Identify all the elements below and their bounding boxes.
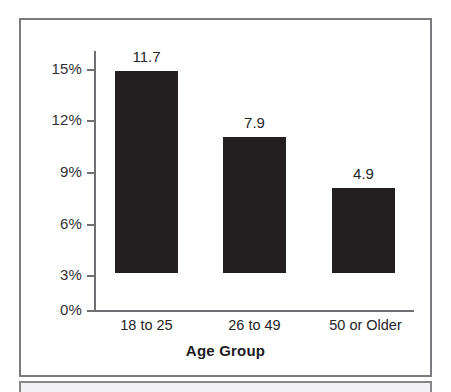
y-tick-label-15: 15%: [36, 60, 82, 78]
bar-value-18-to-25: 11.7: [132, 48, 160, 65]
y-tick-3: 3%: [87, 275, 95, 277]
plot-area: 15% 12% 9% 6% 3% 0% 11.7 7.9: [21, 20, 430, 375]
y-tick-label-3: 3%: [36, 266, 82, 284]
lower-panel: [19, 381, 432, 392]
bar-value-50-or-older: 4.9: [353, 165, 374, 182]
bar-50-or-older[interactable]: 4.9: [332, 188, 395, 273]
x-axis-line: [94, 310, 414, 312]
bar-26-to-49[interactable]: 7.9: [223, 137, 286, 273]
x-category-label-50-or-older: 50 or Older: [310, 316, 421, 334]
y-axis-line: [94, 51, 96, 312]
y-tick-label-0: 0%: [36, 301, 82, 319]
y-tick-9: 9%: [87, 172, 95, 174]
x-axis-title: Age Group: [21, 342, 430, 359]
y-tick-label-12: 12%: [36, 111, 82, 129]
bar-18-to-25[interactable]: 11.7: [115, 71, 178, 273]
y-tick-label-6: 6%: [36, 215, 82, 233]
bar-value-26-to-49: 7.9: [244, 114, 265, 131]
x-category-label-18-to-25: 18 to 25: [97, 316, 196, 334]
x-category-label-26-to-49: 26 to 49: [205, 316, 304, 334]
y-tick-15: 15%: [87, 69, 95, 71]
y-tick-label-9: 9%: [36, 163, 82, 181]
y-tick-6: 6%: [87, 224, 95, 226]
y-tick-12: 12%: [87, 120, 95, 122]
chart-frame: 15% 12% 9% 6% 3% 0% 11.7 7.9: [19, 18, 432, 377]
